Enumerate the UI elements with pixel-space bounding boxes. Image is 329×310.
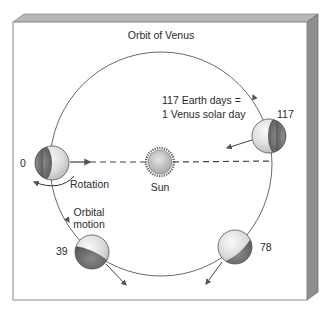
annotation-line-2: 1 Venus solar day bbox=[162, 108, 246, 120]
annotation-line-1: 117 Earth days = bbox=[162, 94, 241, 106]
frame-side-bevel bbox=[307, 14, 318, 300]
day-label-39: 39 bbox=[56, 245, 68, 257]
rotation-label: Rotation bbox=[70, 178, 109, 190]
day-label-117: 117 bbox=[277, 108, 294, 120]
sun-label: Sun bbox=[151, 181, 170, 193]
orbital-motion-label-1: Orbital bbox=[74, 206, 105, 218]
orbital-motion-label-2: motion bbox=[73, 218, 105, 230]
day-label-78: 78 bbox=[260, 241, 272, 253]
frame-top-bevel bbox=[13, 14, 318, 22]
day-label-0: 0 bbox=[20, 157, 26, 169]
diagram-title: Orbit of Venus bbox=[128, 29, 195, 41]
venus-orbit-diagram: Orbit of Venus 117 Earth days = 1 Venus … bbox=[0, 0, 329, 310]
